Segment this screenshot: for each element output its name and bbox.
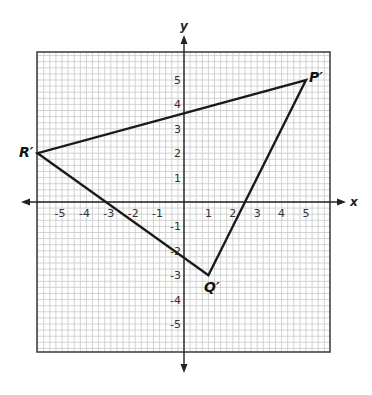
- y-tick-label: 3: [174, 123, 181, 136]
- y-tick-label: -4: [170, 294, 181, 307]
- x-tick-label: -5: [55, 207, 66, 220]
- x-tick-label: -3: [103, 207, 114, 220]
- y-tick-label: -5: [170, 318, 181, 331]
- x-tick-label: 3: [254, 207, 261, 220]
- x-tick-label: 4: [278, 207, 285, 220]
- x-axis-label: x: [349, 195, 359, 209]
- vertex-label-q-prime: Q′: [204, 279, 220, 295]
- y-tick-label: 5: [174, 74, 181, 87]
- y-axis-down-arrow-icon: [181, 364, 188, 373]
- vertex-label-r-prime: R′: [19, 144, 34, 160]
- coordinate-plane: x y -5-4-3-2-112345 54321-1-2-3-4-5 P′ Q…: [0, 0, 372, 395]
- y-tick-label: -1: [170, 220, 181, 233]
- x-tick-label: 5: [303, 207, 310, 220]
- y-axis-label: y: [180, 19, 189, 33]
- x-axis-left-arrow-icon: [21, 199, 30, 206]
- x-axis-right-arrow-icon: [337, 199, 346, 206]
- y-tick-label: 2: [174, 147, 181, 160]
- x-tick-label: 2: [229, 207, 236, 220]
- x-tick-label: -4: [79, 207, 90, 220]
- x-tick-label: -1: [152, 207, 163, 220]
- x-tick-label: 1: [205, 207, 212, 220]
- coordinate-plane-figure: x y -5-4-3-2-112345 54321-1-2-3-4-5 P′ Q…: [0, 0, 372, 395]
- y-tick-label: -3: [170, 269, 181, 282]
- vertex-label-p-prime: P′: [309, 69, 323, 85]
- y-tick-label: 4: [174, 98, 181, 111]
- y-axis-up-arrow-icon: [181, 35, 188, 44]
- y-tick-label: 1: [174, 172, 181, 185]
